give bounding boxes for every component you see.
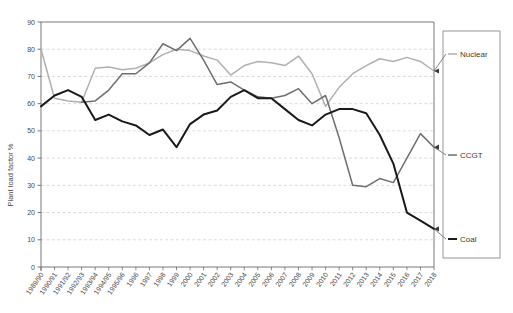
data-series xyxy=(41,38,434,229)
x-tick-label: 1997 xyxy=(139,271,154,288)
y-tick-label: 30 xyxy=(27,182,35,189)
x-tick-label: 1999 xyxy=(166,271,181,288)
x-tick-label: 2017 xyxy=(410,271,425,288)
legend-item-ccgt[interactable]: CCGT xyxy=(448,151,483,160)
x-tick-label: 2005 xyxy=(247,271,262,288)
x-tick-label: 2013 xyxy=(355,271,370,288)
y-tick-label: 90 xyxy=(27,19,35,26)
leader-coal xyxy=(434,226,446,239)
y-tick-label: 70 xyxy=(27,73,35,80)
leader-nuclear xyxy=(434,54,446,74)
legend-item-coal[interactable]: Coal xyxy=(448,235,477,244)
legend-box xyxy=(443,31,500,258)
legend-label-ccgt: CCGT xyxy=(460,151,483,160)
leader-line xyxy=(434,147,446,155)
y-tick-label: 10 xyxy=(27,236,35,243)
annotation-leaders xyxy=(434,54,446,239)
y-tick-label: 80 xyxy=(27,46,35,53)
x-axis-ticks: 1989/901990/911991/921992/931993/941994/… xyxy=(25,267,438,296)
line-chart: 0102030405060708090 1989/901990/911991/9… xyxy=(0,0,513,313)
series-line-coal xyxy=(41,90,434,229)
gridlines xyxy=(41,49,434,240)
x-tick-label: 2010 xyxy=(315,271,330,288)
y-tick-label: 20 xyxy=(27,209,35,216)
y-tick-label: 50 xyxy=(27,127,35,134)
leader-arrowhead xyxy=(434,68,439,73)
x-tick-label: 2009 xyxy=(301,271,316,288)
x-tick-label: 2016 xyxy=(396,271,411,288)
leader-line xyxy=(434,229,446,239)
y-tick-label: 40 xyxy=(27,155,35,162)
leader-line xyxy=(434,54,446,71)
legend-label-nuclear: Nuclear xyxy=(460,50,488,59)
x-tick-label: 2015 xyxy=(382,271,397,288)
x-tick-label: 1996 xyxy=(125,271,140,288)
x-tick-label: 2006 xyxy=(261,271,276,288)
leader-ccgt xyxy=(434,145,446,155)
series-line-ccgt xyxy=(82,38,434,186)
x-tick-label: 2004 xyxy=(233,271,248,288)
legend-label-coal: Coal xyxy=(460,235,477,244)
x-tick-label: 2011 xyxy=(329,271,343,287)
y-tick-label: 60 xyxy=(27,100,35,107)
x-tick-label: 2008 xyxy=(288,271,303,288)
chart-container: 0102030405060708090 1989/901990/911991/9… xyxy=(0,0,513,313)
x-tick-label: 2002 xyxy=(206,271,221,288)
y-tick-label: 0 xyxy=(31,264,35,271)
plot-frame xyxy=(41,22,434,271)
x-tick-label: 2000 xyxy=(179,271,194,288)
x-tick-label: 2003 xyxy=(220,271,235,288)
y-axis-ticks: 0102030405060708090 xyxy=(27,19,41,271)
y-axis-title: Plant load factor % xyxy=(6,143,15,206)
legend-item-nuclear[interactable]: Nuclear xyxy=(448,50,488,59)
x-tick-label: 2007 xyxy=(274,271,289,288)
x-tick-label: 2014 xyxy=(369,271,384,288)
x-tick-label: 2012 xyxy=(342,271,357,288)
x-tick-label: 2018 xyxy=(423,271,438,288)
x-tick-label: 2001 xyxy=(193,271,208,288)
x-tick-label: 1998 xyxy=(152,271,167,288)
legend: NuclearCCGTCoal xyxy=(443,31,500,258)
